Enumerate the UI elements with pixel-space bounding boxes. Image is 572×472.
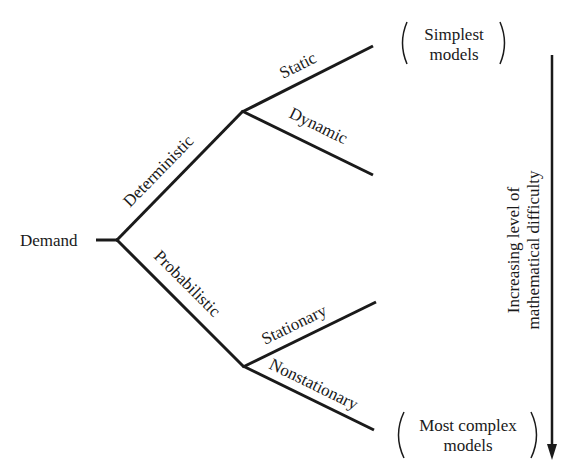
most-complex-line1: Most complex (419, 416, 517, 435)
demand-classification-tree: Demand Deterministic Probabilistic Stati… (0, 0, 572, 472)
simplest-models-note: Simplest models (403, 22, 505, 64)
simplest-line2: models (429, 45, 478, 64)
axis-label-line2: mathematical difficulty (524, 170, 543, 329)
probabilistic-edge (116, 239, 244, 367)
arrow-head-icon (547, 444, 557, 460)
most-complex-line2: models (443, 436, 492, 455)
deterministic-edge (116, 111, 243, 241)
axis-label-line1: Increasing level of (504, 186, 523, 313)
root-label: Demand (20, 231, 78, 250)
most-complex-models-note: Most complex models (399, 412, 537, 458)
dynamic-label: Dynamic (286, 104, 351, 149)
simplest-line1: Simplest (424, 25, 484, 44)
